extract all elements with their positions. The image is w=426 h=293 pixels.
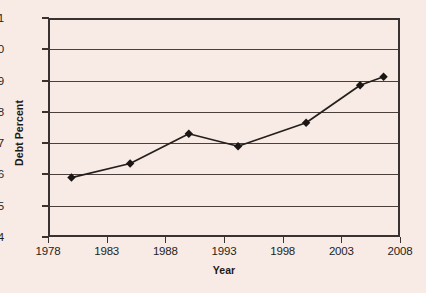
y-tick-mark-18 bbox=[42, 111, 49, 113]
y-tick-label-18: 18 bbox=[0, 106, 4, 118]
y-tick-mark-19 bbox=[42, 80, 49, 82]
gridline-15 bbox=[50, 206, 398, 207]
x-tick-mark-1978 bbox=[48, 237, 49, 243]
y-tick-label-17: 17 bbox=[0, 137, 4, 149]
y-tick-label-20: 20 bbox=[0, 43, 4, 55]
x-tick-label-1983: 1983 bbox=[85, 245, 129, 257]
x-tick-mark-1983 bbox=[107, 237, 108, 243]
gridline-18 bbox=[50, 112, 398, 113]
y-tick-label-21: 21 bbox=[0, 12, 4, 24]
x-tick-label-1988: 1988 bbox=[143, 245, 187, 257]
y-tick-mark-17 bbox=[42, 142, 49, 144]
x-tick-label-1993: 1993 bbox=[202, 245, 246, 257]
gridline-21 bbox=[50, 18, 398, 20]
x-tick-label-1998: 1998 bbox=[261, 245, 305, 257]
gridline-16 bbox=[50, 174, 398, 175]
y-tick-label-16: 16 bbox=[0, 168, 4, 180]
x-tick-mark-1993 bbox=[224, 237, 225, 243]
gridline-19 bbox=[50, 81, 398, 82]
gridline-20 bbox=[50, 49, 398, 50]
plot-area bbox=[48, 18, 400, 237]
x-tick-label-2008: 2008 bbox=[378, 245, 422, 257]
y-axis-title: Debt Percent bbox=[13, 78, 25, 188]
x-tick-label-2003: 2003 bbox=[319, 245, 363, 257]
y-tick-mark-20 bbox=[42, 48, 49, 50]
y-tick-label-15: 15 bbox=[0, 200, 4, 212]
y-tick-label-19: 19 bbox=[0, 75, 4, 87]
gridline-17 bbox=[50, 143, 398, 144]
y-tick-mark-15 bbox=[42, 205, 49, 207]
x-tick-mark-1988 bbox=[165, 237, 166, 243]
y-tick-mark-21 bbox=[42, 17, 49, 19]
debt-percent-line-chart: 1415161718192021 19781983198819931998200… bbox=[0, 0, 426, 293]
y-tick-mark-16 bbox=[42, 173, 49, 175]
x-tick-mark-2008 bbox=[400, 237, 401, 243]
y-tick-label-14: 14 bbox=[0, 231, 4, 243]
x-axis-title: Year bbox=[48, 264, 400, 276]
x-tick-mark-2003 bbox=[341, 237, 342, 243]
x-tick-label-1978: 1978 bbox=[26, 245, 70, 257]
x-tick-mark-1998 bbox=[283, 237, 284, 243]
